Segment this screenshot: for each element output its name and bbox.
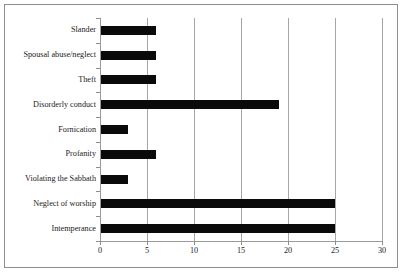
category-tick (96, 117, 100, 118)
chart-figure: SlanderSpousal abuse/neglectTheftDisorde… (0, 0, 403, 279)
value-tick-label: 5 (134, 246, 160, 256)
category-tick (96, 191, 100, 192)
value-tick-15 (241, 241, 242, 245)
value-tick-10 (194, 241, 195, 245)
category-label: Neglect of worship (33, 199, 96, 209)
category-label: Fornication (58, 125, 96, 135)
bar (101, 100, 279, 109)
value-tick-label: 10 (181, 246, 207, 256)
bar (101, 199, 335, 208)
category-label: Slander (71, 25, 96, 35)
value-tick-label: 0 (87, 246, 113, 256)
value-tick-20 (288, 241, 289, 245)
value-tick-0 (100, 241, 101, 245)
category-label: Violating the Sabbath (25, 174, 96, 184)
category-tick (96, 68, 100, 69)
bar (101, 51, 156, 60)
category-label: Disorderly conduct (33, 100, 96, 110)
bar (101, 175, 128, 184)
category-label: Intemperance (51, 224, 96, 234)
value-tick-label: 20 (275, 246, 301, 256)
category-label: Profanity (66, 149, 96, 159)
category-tick (96, 142, 100, 143)
category-tick (96, 92, 100, 93)
category-tick (96, 18, 100, 19)
value-tick-label: 30 (369, 246, 395, 256)
value-tick-5 (147, 241, 148, 245)
category-tick (96, 216, 100, 217)
bar (101, 125, 128, 134)
value-tick-25 (335, 241, 336, 245)
bar (101, 75, 156, 84)
category-label: Theft (78, 75, 96, 85)
value-tick-label: 15 (228, 246, 254, 256)
value-tick-30 (382, 241, 383, 245)
value-tick-label: 25 (322, 246, 348, 256)
bar (101, 224, 335, 233)
plot-area (100, 18, 382, 241)
bar (101, 150, 156, 159)
category-label: Spousal abuse/neglect (23, 50, 96, 60)
category-axis-labels: SlanderSpousal abuse/neglectTheftDisorde… (0, 0, 96, 279)
category-tick (96, 43, 100, 44)
gridline-25 (335, 18, 336, 241)
gridline-30 (382, 18, 383, 241)
bar (101, 26, 156, 35)
category-tick (96, 167, 100, 168)
